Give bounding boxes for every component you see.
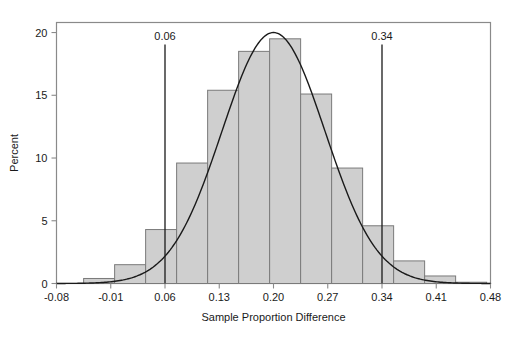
y-axis-tick-label: 5 [41,215,47,227]
histogram-bar [301,94,332,283]
histogram-bar [146,230,177,284]
histogram-bar [332,168,363,283]
chart-canvas: 0.060.3405101520Percent-0.08-0.010.060.1… [0,0,511,340]
x-axis-tick-label: 0.41 [426,291,447,303]
x-axis-tick-label: 0.34 [371,291,392,303]
y-axis-title: Percent [8,134,20,172]
upper-reference-line-label: 0.34 [371,30,392,42]
histogram-bar [208,90,239,283]
histogram-chart: 0.060.3405101520Percent-0.08-0.010.060.1… [0,0,511,340]
x-axis-tick-label: 0.48 [480,291,501,303]
lower-reference-line-label: 0.06 [154,30,175,42]
histogram-bar [394,261,425,284]
x-axis-tick-label: 0.06 [154,291,175,303]
y-axis-tick-label: 0 [41,278,47,290]
y-axis-tick-label: 15 [35,89,47,101]
histogram-bar [270,39,301,284]
y-axis-tick-label: 20 [35,27,47,39]
x-axis: -0.08-0.010.060.130.200.270.340.410.48 [44,284,501,303]
x-axis-tick-label: 0.13 [209,291,230,303]
y-axis: 05101520 [35,27,56,290]
x-axis-tick-label: -0.01 [98,291,123,303]
histogram-bar [177,163,208,283]
x-axis-tick-label: 0.20 [263,291,284,303]
x-axis-title: Sample Proportion Difference [201,311,345,323]
x-axis-tick-label: 0.27 [317,291,338,303]
x-axis-tick-label: -0.08 [44,291,69,303]
histogram-bar [239,51,270,283]
y-axis-tick-label: 10 [35,152,47,164]
